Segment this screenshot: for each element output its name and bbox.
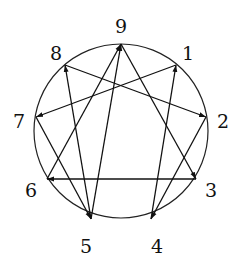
point-label-4: 4 <box>151 235 163 257</box>
point-label-7: 7 <box>13 110 25 132</box>
point-label-8: 8 <box>50 42 62 64</box>
point-label-6: 6 <box>25 179 37 201</box>
point-label-2: 2 <box>217 110 229 132</box>
enneagram-diagram: 912345678 <box>0 0 241 260</box>
enneagram-circle <box>34 44 208 218</box>
point-label-3: 3 <box>205 179 217 201</box>
point-label-5: 5 <box>80 235 92 257</box>
arrow-lines <box>36 44 206 219</box>
arrow-9-to-3 <box>121 44 196 179</box>
point-label-9: 9 <box>115 15 127 37</box>
point-labels: 912345678 <box>13 15 229 257</box>
arrow-8-to-2 <box>65 65 206 117</box>
point-label-1: 1 <box>182 42 194 64</box>
